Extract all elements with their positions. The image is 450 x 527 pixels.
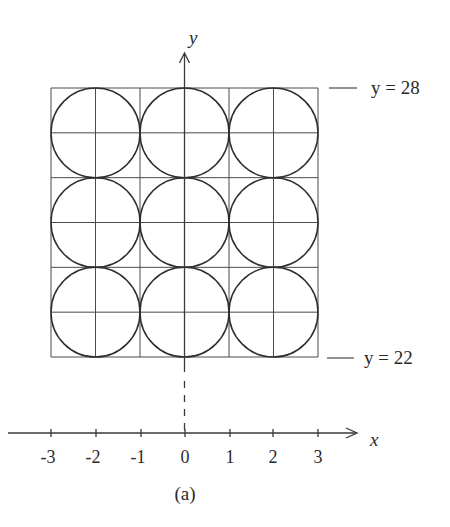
annotation-top: y = 28 <box>371 77 420 98</box>
circle-grid-diagram: y x -3-2-10123 y = 28 y = 22 (a) <box>0 0 450 527</box>
x-tick-label: -2 <box>86 447 101 467</box>
x-axis-label: x <box>369 429 379 450</box>
x-tick-label: 1 <box>226 447 235 467</box>
x-tick-label: 3 <box>314 447 323 467</box>
figure-caption: (a) <box>174 483 195 505</box>
x-tick-label: -3 <box>41 447 56 467</box>
x-tick-label: -1 <box>131 447 146 467</box>
y-axis-label: y <box>187 27 198 48</box>
x-tick-label: 2 <box>269 447 278 467</box>
x-ticks: -3-2-10123 <box>41 429 323 467</box>
annotation-bottom: y = 22 <box>364 347 413 368</box>
x-tick-label: 0 <box>181 447 190 467</box>
